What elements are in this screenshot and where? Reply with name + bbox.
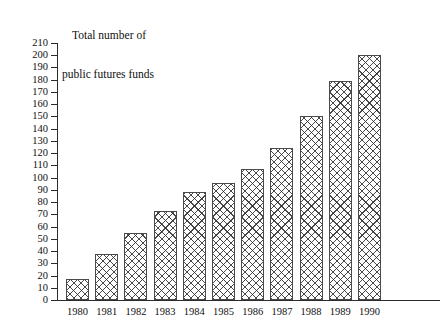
y-axis-tick [51,227,57,228]
y-axis-tick-label: 110 [22,160,48,171]
x-axis-label-1982: 1982 [125,306,146,317]
y-axis-tick-label: 150 [22,111,48,122]
y-axis-tick-label: 180 [22,74,48,85]
x-axis-label-1983: 1983 [155,306,176,317]
y-axis-tick [51,165,57,166]
x-axis-label-1989: 1989 [330,306,351,317]
y-axis-tick-label: 50 [22,234,48,245]
y-axis-tick-label: 90 [22,185,48,196]
bar-1988 [300,116,323,300]
x-axis-label-1985: 1985 [213,306,234,317]
y-axis-tick-label: 20 [22,270,48,281]
y-axis-tick-label: 0 [22,295,48,306]
y-axis-tick [51,141,57,142]
plot-area: 0102030405060708090100110120130140150160… [57,43,440,300]
y-axis-tick-label: 10 [22,283,48,294]
y-axis-tick [51,251,57,252]
x-axis-label-1980: 1980 [67,306,88,317]
y-axis-tick [51,55,57,56]
y-axis-tick [51,153,57,154]
y-axis-tick-label: 200 [22,50,48,61]
x-axis-label-1981: 1981 [96,306,117,317]
y-axis-tick [51,239,57,240]
y-axis-tick-label: 140 [22,123,48,134]
y-axis-tick-label: 40 [22,246,48,257]
y-axis-tick [51,202,57,203]
bar-chart-figure: Total number of public futures funds 010… [0,0,448,323]
bar-1980 [66,279,89,300]
x-axis-label-1987: 1987 [271,306,292,317]
y-axis-tick-label: 30 [22,258,48,269]
bar-1981 [95,254,118,301]
y-axis-tick [51,288,57,289]
y-axis-tick [51,92,57,93]
y-axis-tick [51,67,57,68]
y-axis-tick [51,190,57,191]
y-axis-tick [51,276,57,277]
y-axis-tick-label: 160 [22,99,48,110]
bar-1987 [270,148,293,300]
x-axis-label-1986: 1986 [242,306,263,317]
bar-1983 [154,211,177,300]
y-axis-tick-label: 130 [22,136,48,147]
bar-1989 [329,81,352,300]
y-axis-line [57,43,58,301]
bar-1986 [241,169,264,300]
x-axis-label-1990: 1990 [359,306,380,317]
y-axis-tick-label: 60 [22,221,48,232]
y-axis-tick [51,116,57,117]
y-axis-tick-label: 120 [22,148,48,159]
y-axis-tick-label: 190 [22,62,48,73]
bar-1990 [358,55,381,300]
y-axis-tick [51,300,57,301]
y-axis-tick [51,104,57,105]
y-axis-tick-label: 170 [22,87,48,98]
bar-1984 [183,192,206,300]
y-axis-tick [51,129,57,130]
y-axis-tick [51,43,57,44]
y-axis-tick [51,214,57,215]
y-axis-tick [51,263,57,264]
x-axis-label-1988: 1988 [301,306,322,317]
bar-1982 [124,233,147,300]
y-axis-tick-label: 70 [22,209,48,220]
y-axis-tick-label: 210 [22,38,48,49]
y-axis-tick [51,80,57,81]
x-axis-line [57,300,440,301]
x-axis-label-1984: 1984 [184,306,205,317]
y-axis-tick-label: 100 [22,172,48,183]
y-axis-tick-label: 80 [22,197,48,208]
bar-1985 [212,183,235,300]
y-axis-tick [51,178,57,179]
